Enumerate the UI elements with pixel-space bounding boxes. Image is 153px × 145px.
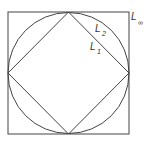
label-l-infinity: L ∞: [131, 11, 143, 26]
label-l1-sub: 1: [97, 48, 101, 55]
label-l2: L 2: [95, 23, 106, 37]
label-l2-sub: 2: [101, 30, 106, 37]
label-l-infinity-main: L: [131, 11, 137, 22]
label-l1-main: L: [90, 41, 96, 52]
l2-circle: [8, 13, 129, 134]
label-l2-main: L: [95, 23, 101, 34]
label-l-infinity-sub: ∞: [138, 19, 143, 26]
norm-unit-balls-diagram: L ∞ L 2 L 1: [0, 0, 153, 145]
